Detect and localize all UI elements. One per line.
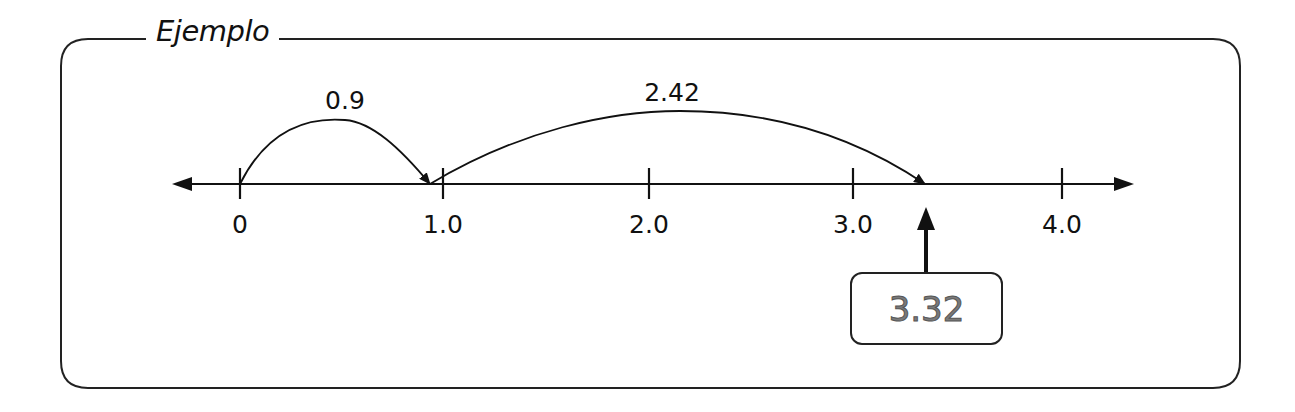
diagram-title: Ejemplo bbox=[146, 14, 279, 48]
jump-label-2: 2.42 bbox=[644, 78, 700, 107]
example-diagram: Ejemplo 0.9 2.42 0 1.0 2.0 3.0 4.0 3.32 bbox=[0, 0, 1295, 412]
result-value: 3.32 bbox=[889, 289, 965, 329]
jump-arc-0.9 bbox=[240, 120, 430, 184]
tick-label-3: 3.0 bbox=[833, 210, 873, 239]
jump-arc-2.42 bbox=[430, 111, 925, 184]
tick-label-2: 2.0 bbox=[629, 210, 669, 239]
diagram-graphics bbox=[0, 0, 1295, 412]
result-pointer-arrow-icon bbox=[917, 207, 935, 230]
result-box: 3.32 bbox=[850, 272, 1003, 345]
axis-left-arrow-icon bbox=[172, 177, 192, 191]
tick-label-1: 1.0 bbox=[423, 210, 463, 239]
jump-label-1: 0.9 bbox=[325, 86, 365, 115]
axis-right-arrow-icon bbox=[1114, 177, 1134, 191]
tick-label-4: 4.0 bbox=[1042, 210, 1082, 239]
tick-label-0: 0 bbox=[232, 210, 248, 239]
